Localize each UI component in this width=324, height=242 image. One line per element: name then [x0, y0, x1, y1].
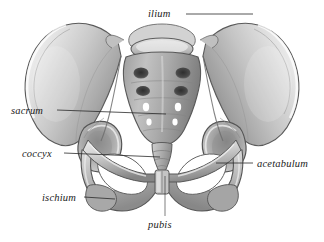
sacral-foramen [146, 119, 151, 126]
label-pubis: pubis [148, 219, 172, 230]
pubic-symphysis [155, 170, 169, 194]
label-ischium: ischium [42, 192, 76, 203]
sacral-foramen [143, 103, 149, 111]
label-ilium: ilium [148, 8, 171, 19]
label-sacrum: sacrum [11, 105, 43, 116]
sacral-foramen [134, 68, 149, 79]
sacral-foramen [136, 86, 150, 96]
sacral-foramen [176, 68, 191, 79]
sacrum [123, 52, 200, 145]
label-coccyx: coccyx [22, 148, 52, 159]
pelvis-illustration [0, 0, 324, 242]
sacral-foramen [175, 103, 181, 111]
pelvis-figure: ilium sacrum coccyx acetabulum ischium p… [0, 0, 324, 242]
label-acetabulum: acetabulum [257, 158, 308, 169]
sacral-foramen [172, 119, 177, 126]
sacral-foramen [174, 86, 188, 96]
